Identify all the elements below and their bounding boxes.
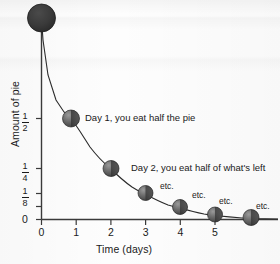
annotation-day-2: Day 2, you eat half of what's left <box>131 162 265 173</box>
annotation-etc-2: etc. <box>192 190 206 200</box>
annotation-etc-3: etc. <box>219 196 233 206</box>
x-axis-ticks <box>42 220 216 226</box>
y-tick-label-zero: 0 <box>15 213 35 225</box>
data-point-day-1 <box>63 110 80 127</box>
y-axis-ticks <box>36 119 42 220</box>
data-point-day-3 <box>138 186 153 201</box>
y-tick-label-one-half: 1 2 <box>17 112 33 133</box>
chart-plot-area <box>0 0 280 264</box>
annotation-etc-4: etc. <box>256 201 270 211</box>
y-tick-label-one-eighth: 1 8 <box>17 187 33 208</box>
x-tick-label-2: 2 <box>101 226 121 238</box>
data-point-day-4 <box>173 200 188 215</box>
x-tick-label-0: 0 <box>32 226 52 238</box>
x-tick-label-3: 3 <box>136 226 156 238</box>
pie-decay-chart-figure: Amount of pie Time (days) 1 2 1 4 1 8 0 … <box>0 0 280 264</box>
y-tick-label-one-quarter: 1 4 <box>17 162 33 183</box>
data-point-day-6 <box>243 210 259 226</box>
annotation-etc-1: etc. <box>160 181 174 191</box>
data-point-day-5 <box>208 207 223 222</box>
x-tick-label-5: 5 <box>205 226 225 238</box>
data-point-day-2 <box>103 161 119 177</box>
x-tick-label-4: 4 <box>170 226 190 238</box>
x-axis-title: Time (days) <box>96 243 152 255</box>
data-point-day-0 <box>28 4 56 32</box>
annotation-day-1: Day 1, you eat half the pie <box>85 112 195 123</box>
x-tick-label-1: 1 <box>66 226 86 238</box>
